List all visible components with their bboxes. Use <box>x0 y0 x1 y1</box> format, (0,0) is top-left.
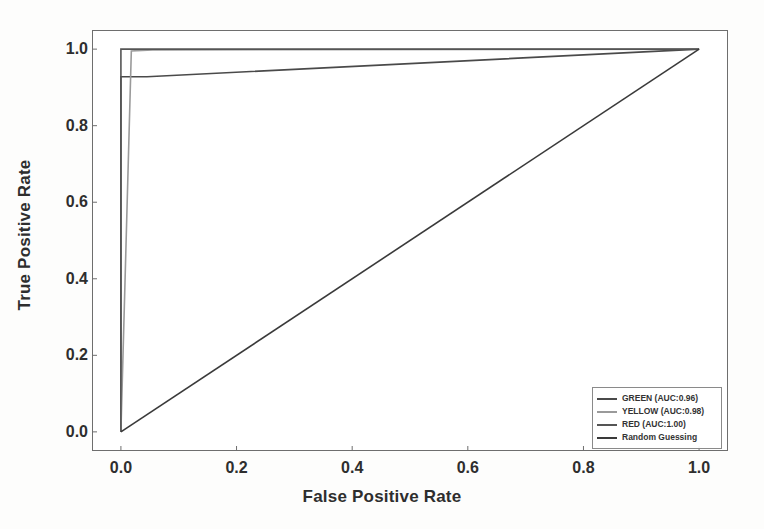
roc-curve-3 <box>121 49 699 432</box>
legend-line-swatch-icon <box>597 411 617 413</box>
legend-item-label: YELLOW (AUC:0.98) <box>622 405 704 418</box>
legend-item: RED (AUC:1.00) <box>597 418 716 431</box>
x-tick-label: 0.4 <box>317 459 387 477</box>
legend-item: YELLOW (AUC:0.98) <box>597 405 716 418</box>
chart-legend: GREEN (AUC:0.96)YELLOW (AUC:0.98)RED (AU… <box>592 387 722 449</box>
figure-page: 0.00.20.40.60.81.0 True Positive Rate 0.… <box>0 0 764 529</box>
x-tick-label: 0.6 <box>433 459 503 477</box>
y-tick-label: 0.8 <box>36 117 88 135</box>
roc-curve-figure: 0.00.20.40.60.81.0 True Positive Rate 0.… <box>0 0 764 529</box>
legend-item-label: GREEN (AUC:0.96) <box>622 392 698 405</box>
legend-line-swatch-icon <box>597 398 617 400</box>
legend-item-label: Random Guessing <box>622 431 697 444</box>
y-tick-label: 0.0 <box>36 423 88 441</box>
y-tick-label: 0.4 <box>36 270 88 288</box>
y-axis-title: True Positive Rate <box>14 160 34 311</box>
legend-line-swatch-icon <box>597 424 617 426</box>
x-axis-tick-labels: 0.00.20.40.60.81.0 <box>0 459 764 485</box>
x-tick-label: 0.2 <box>202 459 272 477</box>
series-group <box>121 49 699 432</box>
legend-item: GREEN (AUC:0.96) <box>597 392 716 405</box>
y-tick-label: 1.0 <box>36 40 88 58</box>
x-axis-title: False Positive Rate <box>0 487 764 507</box>
x-tick-label: 0.8 <box>548 459 618 477</box>
y-axis-title-wrap: True Positive Rate <box>6 0 42 470</box>
y-tick-label: 0.2 <box>36 346 88 364</box>
x-tick-label: 0.0 <box>86 459 156 477</box>
legend-line-swatch-icon <box>597 437 617 439</box>
legend-item: Random Guessing <box>597 431 716 444</box>
x-tick-label: 1.0 <box>664 459 734 477</box>
legend-item-label: RED (AUC:1.00) <box>622 418 686 431</box>
y-tick-label: 0.6 <box>36 193 88 211</box>
